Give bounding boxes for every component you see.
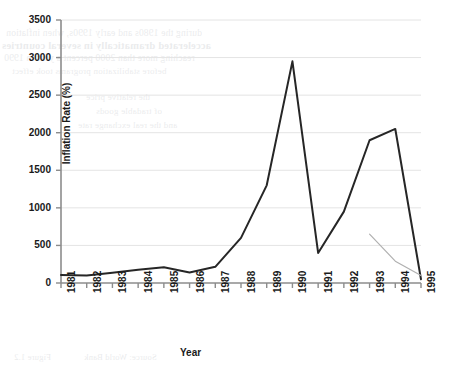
y-axis-tick-label: 0 xyxy=(7,278,51,288)
x-axis-tick-label: 1992 xyxy=(349,271,360,293)
x-axis-tick-label: 1987 xyxy=(220,271,231,293)
y-axis-tick-label: 3500 xyxy=(7,15,51,25)
x-axis-tick-label: 1994 xyxy=(400,271,411,293)
x-axis-tick-label: 1984 xyxy=(143,271,154,293)
x-axis-tick-label: 1988 xyxy=(246,271,257,293)
x-axis-title: Year xyxy=(180,347,201,358)
x-axis-tick-label: 1985 xyxy=(169,271,180,293)
y-axis-tick-label: 2000 xyxy=(7,128,51,138)
y-axis-tick-label: 1500 xyxy=(7,165,51,175)
inflation-rate-chart-figure: during the 1980s and early 1990s, when i… xyxy=(0,0,449,367)
y-axis-tick-label: 1000 xyxy=(7,203,51,213)
x-axis-tick-label: 1983 xyxy=(117,271,128,293)
y-axis-title: Inflation Rate (%) xyxy=(61,54,72,194)
x-axis-tick-label: 1995 xyxy=(426,271,437,293)
x-axis-tick-label: 1993 xyxy=(375,271,386,293)
x-axis-tick-label: 1991 xyxy=(323,271,334,293)
x-axis-tick-label: 1989 xyxy=(272,271,283,293)
x-axis-tick-label: 1990 xyxy=(297,271,308,293)
x-axis-tick-label: 1986 xyxy=(195,271,206,293)
y-axis-tick-label: 2500 xyxy=(7,90,51,100)
y-axis-tick-label: 500 xyxy=(7,240,51,250)
x-axis-tick-label: 1982 xyxy=(92,271,103,293)
x-axis-tick-label: 1981 xyxy=(66,271,77,293)
gridlines xyxy=(61,20,421,245)
y-axis-tick-label: 3000 xyxy=(7,53,51,63)
series-line-inflation-rate-secondary xyxy=(370,234,421,275)
